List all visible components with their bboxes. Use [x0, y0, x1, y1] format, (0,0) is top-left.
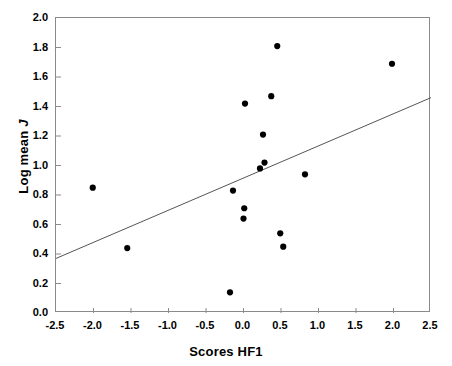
data-points [90, 43, 395, 296]
x-tick-label: 1.0 [310, 320, 325, 331]
data-point [241, 205, 247, 211]
data-point [389, 61, 395, 67]
data-point [227, 289, 233, 295]
x-tick-label: 0.0 [235, 320, 250, 331]
x-tick-label: -0.5 [196, 320, 215, 331]
data-point [277, 230, 283, 236]
y-axis-title: Log mean J [16, 72, 31, 242]
x-tick-label: 2.5 [422, 320, 437, 331]
data-point [230, 187, 236, 193]
x-tick-label: -1.5 [121, 320, 140, 331]
data-point [302, 171, 308, 177]
y-tick-label: 0.4 [4, 248, 48, 259]
trendline [56, 98, 431, 259]
trendline-segment [56, 98, 431, 259]
plot-canvas [56, 18, 431, 313]
x-axis-title: Scores HF1 [0, 344, 452, 359]
y-tick-label: 0.0 [4, 307, 48, 318]
x-tick-label: 0.5 [272, 320, 287, 331]
data-point [268, 93, 274, 99]
data-point [261, 159, 267, 165]
data-point [124, 245, 130, 251]
data-point [242, 100, 248, 106]
data-point [280, 244, 286, 250]
data-point [274, 43, 280, 49]
y-tick-label: 1.8 [4, 41, 48, 52]
data-point [257, 165, 263, 171]
y-axis-title-symbol: J [16, 119, 31, 126]
y-axis-title-text: Log mean [16, 131, 31, 194]
data-point [240, 216, 246, 222]
x-tick-label: -2.0 [83, 320, 102, 331]
x-tick-label: -2.5 [46, 320, 65, 331]
data-point [90, 185, 96, 191]
y-tick-label: 0.2 [4, 277, 48, 288]
x-tick-label: 2.0 [385, 320, 400, 331]
scatter-plot-figure: 0.00.20.40.60.81.01.21.41.61.82.0 -2.5-2… [0, 0, 452, 366]
x-tick-label: 1.5 [347, 320, 362, 331]
plot-area [55, 17, 430, 312]
y-tick-label: 2.0 [4, 12, 48, 23]
data-point [260, 131, 266, 137]
x-tick-label: -1.0 [158, 320, 177, 331]
